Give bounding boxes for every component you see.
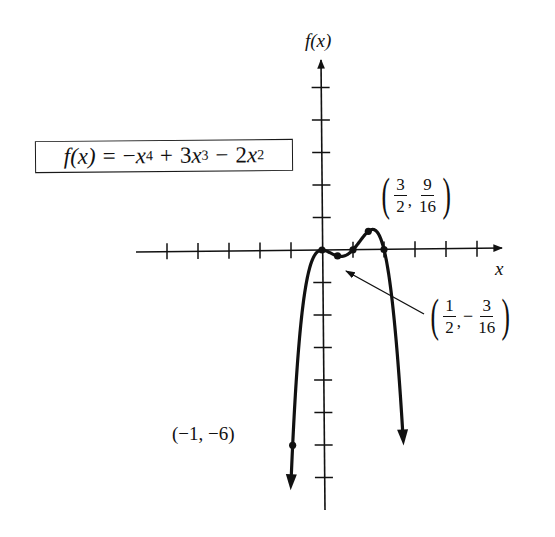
formula-term3-sign: − bbox=[215, 142, 228, 168]
comma: , bbox=[408, 191, 412, 211]
left-point-label: (−1, −6) bbox=[172, 423, 235, 445]
y-axis-label: f(x) bbox=[305, 30, 331, 52]
marked-point bbox=[365, 228, 372, 235]
fraction-denominator: 2 bbox=[443, 317, 456, 336]
close-paren: ) bbox=[502, 293, 510, 339]
fraction-numerator: 9 bbox=[421, 176, 434, 196]
formula-term2-base: x bbox=[191, 143, 201, 169]
function-graph bbox=[0, 0, 555, 537]
max-point-x-fraction: 3 2 bbox=[394, 176, 407, 215]
marked-point bbox=[334, 252, 341, 259]
sign: − bbox=[463, 306, 473, 327]
marked-points bbox=[289, 228, 388, 449]
y-axis bbox=[321, 60, 325, 510]
fraction-denominator: 16 bbox=[476, 317, 497, 336]
curve-left-arrow-icon bbox=[286, 474, 297, 490]
min-point-y-fraction: 3 16 bbox=[476, 297, 497, 336]
fraction-numerator: 3 bbox=[394, 176, 407, 196]
min-point-label: ( 1 2 , − 3 16 ) bbox=[427, 293, 514, 339]
formula-term2-coef: 3 bbox=[180, 143, 192, 169]
curve-right-arrow-icon bbox=[397, 429, 408, 445]
fraction-numerator: 3 bbox=[480, 297, 493, 317]
min-point-x-fraction: 1 2 bbox=[443, 297, 456, 336]
max-point-y-fraction: 9 16 bbox=[417, 176, 438, 215]
min-point-leader-arrow bbox=[346, 271, 424, 314]
formula-equals: = bbox=[103, 143, 116, 169]
function-formula-box: f(x) = − x4 + 3x3 − 2x2 bbox=[35, 139, 293, 173]
fraction-denominator: 16 bbox=[417, 196, 438, 215]
function-curve bbox=[291, 229, 402, 474]
formula-term1-base: x bbox=[136, 143, 146, 169]
marked-point bbox=[349, 246, 356, 253]
marked-point bbox=[289, 442, 296, 449]
max-point-label: ( 3 2 , 9 16 ) bbox=[378, 172, 454, 218]
fraction-denominator: 2 bbox=[394, 196, 407, 215]
formula-term2-sign: + bbox=[160, 143, 173, 169]
marked-point bbox=[380, 246, 387, 253]
formula-term1-sign: − bbox=[123, 143, 136, 169]
formula-lhs: f(x) bbox=[64, 144, 96, 170]
close-paren: ) bbox=[443, 172, 451, 218]
formula-term3-base: x bbox=[247, 142, 257, 168]
marked-point bbox=[318, 246, 325, 253]
open-paren: ( bbox=[381, 172, 389, 218]
comma: , bbox=[457, 312, 461, 332]
open-paren: ( bbox=[430, 293, 438, 339]
formula-term3-coef: 2 bbox=[235, 142, 247, 168]
x-axis-label: x bbox=[495, 258, 503, 280]
fraction-numerator: 1 bbox=[443, 297, 456, 317]
